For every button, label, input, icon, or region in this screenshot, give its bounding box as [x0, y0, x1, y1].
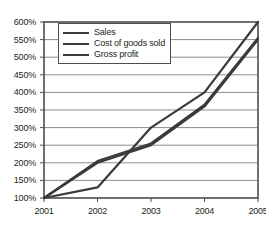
legend-swatch-icon: [63, 43, 89, 45]
legend-item-label: Sales: [94, 27, 116, 38]
line-chart: 100%150%200%250%300%350%400%450%500%550%…: [0, 0, 266, 235]
legend-swatch-icon: [63, 54, 89, 56]
legend-item-label: Gross profit: [94, 49, 138, 60]
x-axis-tick-label: 2004: [195, 207, 214, 216]
legend-item-gross-profit: Gross profit: [63, 49, 165, 60]
x-axis-tick-label: 2005: [248, 207, 266, 216]
x-axis-tick-label: 2001: [34, 207, 53, 216]
legend-swatch-icon: [63, 32, 89, 34]
x-axis-tick-label: 2002: [88, 207, 107, 216]
chart-legend: Sales Cost of goods sold Gross profit: [58, 23, 171, 64]
legend-item-label: Cost of goods sold: [94, 38, 165, 49]
legend-item-cost-of-goods-sold: Cost of goods sold: [63, 38, 165, 49]
legend-item-sales: Sales: [63, 27, 165, 38]
x-axis-tick-label: 2003: [141, 207, 160, 216]
